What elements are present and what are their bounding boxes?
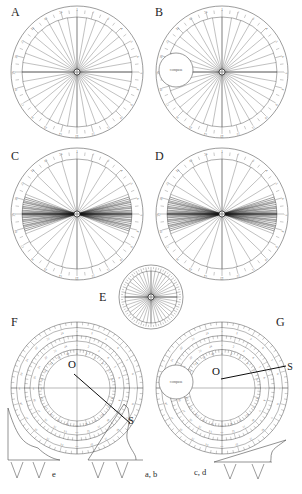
ring-number-label: 9 bbox=[270, 416, 274, 420]
dial-ray bbox=[78, 74, 96, 123]
dial-tick bbox=[270, 242, 276, 246]
dial-minor-tick bbox=[39, 23, 41, 26]
dial-minor-tick bbox=[53, 126, 54, 129]
dial-tick-label: 10 bbox=[119, 115, 124, 120]
dial-tick bbox=[125, 100, 131, 104]
ring-number-label: 24 bbox=[64, 344, 68, 349]
dial-center-dot bbox=[76, 213, 78, 215]
waveform-tick bbox=[224, 464, 236, 479]
waveform-lobe bbox=[270, 440, 286, 462]
dial-graduation bbox=[88, 450, 89, 453]
dial-tick-label: 11 bbox=[106, 267, 111, 272]
ring-number-label: 8 bbox=[276, 403, 280, 406]
dial-center-dot bbox=[76, 71, 78, 73]
dial-graduation bbox=[200, 433, 201, 436]
dial-graduation bbox=[70, 423, 71, 426]
dial-ray bbox=[35, 37, 75, 71]
dial-minor-tick bbox=[143, 268, 144, 270]
dial-graduation bbox=[243, 340, 244, 343]
dial-tick-label: 15 bbox=[43, 267, 48, 272]
dial-ray bbox=[35, 74, 75, 108]
dial-graduation bbox=[109, 348, 111, 350]
panel-f: 1234567891011121314151617181920212223241… bbox=[11, 322, 143, 454]
dial-graduation bbox=[122, 374, 127, 375]
ring-number-label: 13 bbox=[75, 445, 78, 449]
dial-tick bbox=[132, 317, 135, 320]
dial-graduation bbox=[284, 377, 287, 378]
dial-ray bbox=[153, 297, 176, 301]
dial-tick-label: 14 bbox=[58, 132, 62, 137]
dial-ray bbox=[153, 299, 170, 316]
dial-ray bbox=[29, 45, 75, 71]
dial-ray bbox=[224, 30, 258, 70]
dial-graduation bbox=[189, 331, 192, 336]
dial-graduation bbox=[134, 415, 137, 416]
dial-ray bbox=[224, 73, 273, 91]
ring-number-label: 14 bbox=[208, 429, 212, 434]
waveform-ramp bbox=[214, 440, 286, 462]
dial-ray bbox=[193, 216, 221, 261]
dial-tick-label: 12 bbox=[91, 132, 95, 137]
dial-ray bbox=[224, 62, 276, 71]
dial-graduation bbox=[251, 366, 253, 368]
dial-ray bbox=[133, 279, 150, 296]
dial-graduation bbox=[274, 418, 279, 421]
dial-minor-tick bbox=[258, 165, 260, 168]
dial-graduation bbox=[32, 362, 37, 365]
dial-minor-tick bbox=[176, 309, 178, 310]
dial-graduation bbox=[86, 336, 87, 339]
dial-minor-tick bbox=[28, 176, 31, 178]
dial-minor-tick bbox=[173, 108, 176, 110]
dial-graduation bbox=[23, 350, 25, 352]
dial-tick bbox=[168, 274, 171, 277]
dial-ray bbox=[48, 216, 76, 261]
ring-number-label: 8 bbox=[117, 399, 121, 402]
ring-number-label: 18 bbox=[19, 402, 24, 406]
dial-tick bbox=[275, 86, 282, 88]
dial-minor-tick bbox=[268, 108, 271, 110]
dial-graduation bbox=[270, 346, 272, 348]
dial-ray bbox=[79, 45, 125, 71]
dial-graduation bbox=[94, 339, 95, 342]
dial-graduation bbox=[187, 403, 190, 404]
dial-tick-label: 15 bbox=[188, 125, 193, 130]
dial-graduation bbox=[171, 428, 173, 430]
ring-number-label: 11 bbox=[248, 437, 253, 442]
dial-minor-tick bbox=[53, 268, 54, 271]
dial-tick bbox=[33, 111, 38, 116]
ring-number-label: 2 bbox=[87, 344, 90, 348]
dial-tick bbox=[175, 306, 179, 307]
ring-number-label: 6 bbox=[255, 378, 259, 381]
dial-graduation bbox=[99, 447, 100, 450]
dial-graduation bbox=[26, 374, 31, 375]
dial-graduation bbox=[237, 420, 238, 423]
dial-graduation bbox=[30, 341, 34, 345]
dial-graduation bbox=[184, 440, 186, 442]
ring-number-label: 16 bbox=[178, 427, 183, 432]
ring-number-label: 18 bbox=[32, 398, 37, 402]
dial-tick bbox=[206, 125, 208, 132]
ring-number-label: 7 bbox=[133, 388, 137, 390]
dial-minor-tick bbox=[28, 108, 31, 110]
dial-graduation bbox=[280, 371, 285, 372]
dial-minor-tick bbox=[178, 304, 180, 305]
dial-ray bbox=[67, 18, 76, 70]
ring-number-label: 13 bbox=[220, 431, 223, 435]
dial-graduation bbox=[175, 341, 179, 345]
dial-tick-label: 20 bbox=[159, 54, 164, 58]
dial-tick-label: 14 bbox=[203, 274, 207, 279]
dial-tick-label: 24 bbox=[204, 10, 208, 15]
dial-tick-label: 7 bbox=[283, 72, 287, 74]
dial-graduation bbox=[171, 400, 176, 401]
dial-graduation bbox=[196, 343, 199, 348]
dial-graduation bbox=[32, 412, 37, 415]
ring-number-label: 18 bbox=[164, 402, 169, 406]
figure-canvas: A B C D E F G 12345678910111213141516171… bbox=[0, 0, 302, 494]
dial-ray bbox=[79, 74, 113, 114]
dial-graduation bbox=[118, 416, 120, 418]
ring-number-label: 7 bbox=[264, 388, 268, 390]
dial-graduation bbox=[251, 408, 253, 410]
dial-minor-tick bbox=[131, 48, 134, 49]
dial-graduation bbox=[61, 353, 62, 356]
dial-graduation bbox=[231, 336, 232, 339]
